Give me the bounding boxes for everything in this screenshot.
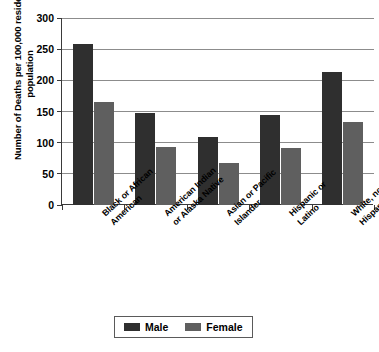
y-axis-tick-label: 200	[36, 74, 54, 86]
bar-female	[94, 102, 114, 205]
x-axis-category-label: Hispanic orLatino	[287, 211, 303, 228]
bar-male	[322, 72, 342, 205]
x-axis-category-label: White, notHispanic or Latino	[349, 211, 365, 228]
x-axis-category-label-line: American	[108, 219, 116, 227]
bar-male	[135, 113, 155, 205]
legend-entry: Female	[185, 321, 242, 333]
y-axis-tick-label: 100	[36, 137, 54, 149]
x-axis-category-label-line: Black or African	[100, 211, 108, 219]
bar-male	[73, 44, 93, 205]
bar-male	[198, 137, 218, 205]
x-axis-tick	[374, 205, 375, 210]
legend-label: Female	[206, 321, 242, 333]
x-axis-category-label-line: Asian or Pacific	[224, 211, 232, 219]
x-axis-category-label-line: or Alaska Native	[170, 219, 178, 227]
x-axis-category-label: Asian or PacificIslander	[224, 211, 240, 228]
x-axis-tick	[249, 205, 250, 210]
x-axis-category-label: American Indianor Alaska Native	[162, 211, 178, 228]
legend-label: Male	[145, 321, 168, 333]
y-axis-tick-label: 50	[42, 168, 54, 180]
bar-male	[260, 115, 280, 205]
chart-legend: MaleFemale	[114, 316, 253, 338]
x-axis-category-label-line: American Indian	[162, 211, 170, 219]
bar-female	[281, 148, 301, 205]
x-axis-category-label-line: White, not	[349, 211, 357, 219]
legend-swatch	[185, 323, 201, 331]
y-axis-tick-label: 0	[48, 199, 54, 211]
bar-female	[156, 147, 176, 205]
x-axis-category-label-line: Latino	[295, 219, 303, 227]
bar-female	[219, 163, 239, 205]
bars-group	[62, 18, 374, 205]
x-axis-tick	[312, 205, 313, 210]
x-axis-tick	[124, 205, 125, 210]
y-axis-tick-label: 150	[36, 106, 54, 118]
y-axis-tick-label: 250	[36, 43, 54, 55]
bar-female	[343, 122, 363, 205]
x-axis-tick	[187, 205, 188, 210]
x-axis-tick	[62, 205, 63, 210]
legend-entry: Male	[124, 321, 168, 333]
x-axis-category-label: Black or AfricanAmerican	[100, 211, 116, 228]
y-axis-tick-label: 300	[36, 12, 54, 24]
plot-area: 050100150200250300	[61, 18, 373, 205]
x-axis-category-label-line: Hispanic or Latino	[357, 219, 365, 227]
legend-swatch	[124, 323, 140, 331]
x-axis-category-label-line: Islander	[232, 219, 240, 227]
x-axis-category-label-line: Hispanic or	[287, 211, 295, 219]
